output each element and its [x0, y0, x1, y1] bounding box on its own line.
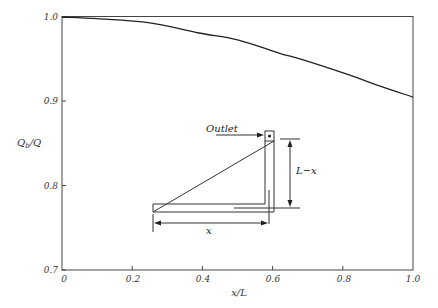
horizontal-length-label: x — [206, 225, 212, 236]
x-tick-label: 0.4 — [196, 274, 211, 284]
x-tick-label: 0.8 — [337, 274, 352, 284]
x-tick-label: 0 — [61, 274, 67, 284]
x-tick-label: 1.0 — [406, 274, 421, 284]
plot-frame — [62, 17, 413, 271]
y-tick-label: 0.7 — [44, 265, 59, 275]
x-ticks — [132, 266, 343, 270]
x-axis-label: x/L — [231, 287, 247, 298]
y-ticks — [62, 17, 66, 270]
inset-diagram — [153, 131, 300, 232]
outlet-dot — [268, 134, 271, 137]
x-tick-label: 0.6 — [266, 274, 281, 284]
data-line — [62, 17, 413, 97]
x-tick-label: 0.2 — [126, 274, 141, 284]
y-tick-label: 1.0 — [44, 12, 59, 22]
y-axis-label: Qb/Q — [17, 137, 41, 150]
chart-svg: 0.7 0.8 0.9 1.0 0 0.2 0.4 0.6 0.8 1.0 x/… — [0, 0, 438, 308]
outlet-label: Outlet — [206, 123, 239, 134]
y-tick-label: 0.8 — [44, 181, 59, 191]
pipe-outline — [153, 141, 274, 212]
y-tick-label: 0.9 — [44, 96, 59, 106]
vertical-length-label: L−x — [295, 165, 317, 176]
